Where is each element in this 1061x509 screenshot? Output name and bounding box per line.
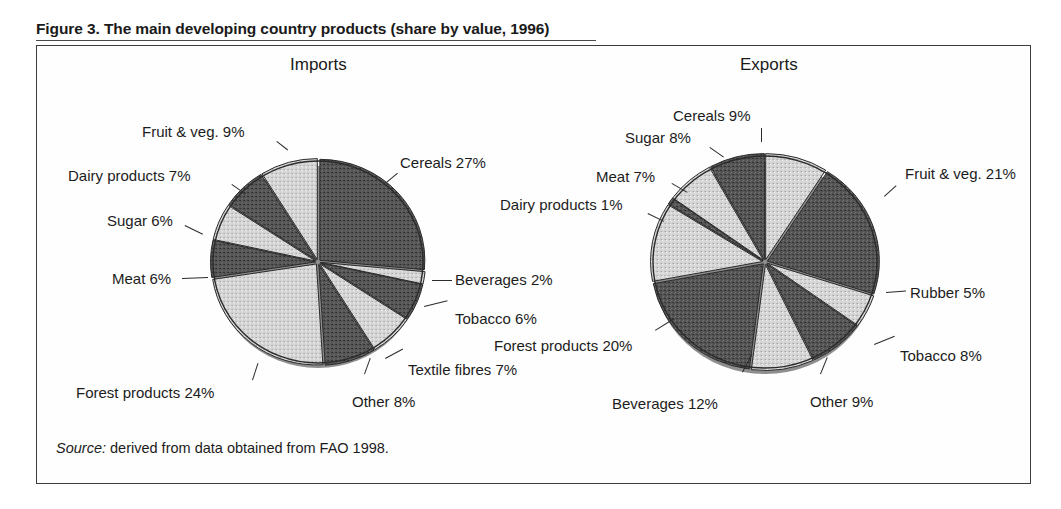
exports-pie-chart [645, 142, 890, 387]
exports-label-tobacco: Tobacco 8% [900, 348, 982, 365]
imports-label-textile-fibres: Textile fibres 7% [408, 362, 517, 379]
imports-label-forest-products: Forest products 24% [76, 385, 214, 402]
exports-pie-svg [645, 142, 890, 387]
imports-label-dairy-products: Dairy products 7% [68, 168, 191, 185]
figure-caption: Figure 3. The main developing country pr… [36, 20, 596, 41]
imports-label-fruit-veg: Fruit & veg. 9% [142, 124, 245, 141]
exports-label-dairy-products: Dairy products 1% [500, 197, 623, 214]
exports-label-rubber: Rubber 5% [910, 285, 985, 302]
imports-label-other: Other 8% [352, 394, 415, 411]
imports-panel-heading: Imports [290, 55, 347, 75]
exports-panel-heading: Exports [740, 55, 798, 75]
exports-leader-cereals [761, 128, 762, 142]
imports-pie-svg [196, 140, 446, 385]
exports-label-sugar: Sugar 8% [625, 130, 691, 147]
source-text: derived from data obtained from FAO 1998… [106, 440, 389, 456]
imports-label-cereals: Cereals 27% [400, 155, 486, 172]
pie-slice [213, 264, 323, 365]
imports-label-sugar: Sugar 6% [107, 213, 173, 230]
imports-pie-chart [196, 140, 446, 385]
exports-label-meat: Meat 7% [596, 169, 655, 186]
exports-label-beverages: Beverages 12% [612, 396, 718, 413]
exports-label-forest-products: Forest products 20% [494, 338, 632, 355]
source-label: Source: [56, 440, 106, 456]
imports-label-meat: Meat 6% [112, 271, 171, 288]
imports-label-tobacco: Tobacco 6% [455, 311, 537, 328]
exports-label-other: Other 9% [810, 394, 873, 411]
source-note: Source: derived from data obtained from … [56, 440, 389, 456]
imports-label-beverages: Beverages 2% [455, 272, 553, 289]
exports-label-cereals: Cereals 9% [673, 108, 751, 125]
imports-leader-beverages [432, 280, 452, 281]
exports-label-fruit-veg: Fruit & veg. 21% [905, 166, 1016, 183]
